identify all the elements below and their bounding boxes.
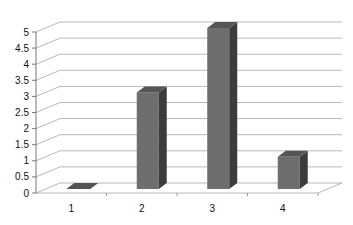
gridline [36, 119, 342, 129]
y-axis-labels: 00.511.522.533.544.55 [15, 27, 29, 199]
bar-2 [137, 86, 167, 189]
bars [66, 22, 308, 189]
x-tick-label: 3 [209, 203, 215, 214]
y-tick-label: 0 [23, 188, 29, 199]
x-tick-label: 4 [280, 203, 286, 214]
gridline [36, 86, 342, 96]
bar-4 [278, 151, 308, 189]
x-axis-labels: 1234 [68, 203, 286, 214]
y-tick-label: 1.5 [15, 139, 29, 150]
bar-3 [207, 22, 237, 189]
x-tick-label: 1 [68, 203, 74, 214]
gridline [36, 103, 342, 113]
axes [32, 32, 318, 196]
y-tick-label: 0.5 [15, 171, 29, 182]
x-tick-label: 2 [139, 203, 145, 214]
y-tick-label: 5 [23, 27, 29, 38]
gridline [36, 22, 342, 32]
gridline [36, 38, 342, 48]
bar-1 [66, 183, 98, 189]
y-tick-label: 4.5 [15, 43, 29, 54]
gridline [36, 135, 342, 145]
gridline [36, 70, 342, 80]
y-tick-label: 1 [23, 155, 29, 166]
y-tick-label: 2.5 [15, 107, 29, 118]
y-tick-label: 2 [23, 123, 29, 134]
y-tick-label: 3 [23, 91, 29, 102]
y-tick-label: 4 [23, 59, 29, 70]
bar-chart: 00.511.522.533.544.55 1234 [0, 0, 353, 225]
y-tick-label: 3.5 [15, 75, 29, 86]
gridline [36, 54, 342, 64]
